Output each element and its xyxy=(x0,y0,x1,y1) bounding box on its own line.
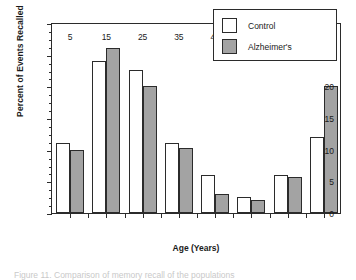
x-tick-75 xyxy=(324,213,325,218)
y-tick-minor xyxy=(49,206,52,207)
bar-alzheimer-s-65 xyxy=(288,177,302,213)
y-tick-minor xyxy=(49,143,52,144)
bar-control-65 xyxy=(274,175,288,213)
y-tick-minor xyxy=(49,72,52,73)
y-tick-minor xyxy=(49,64,52,65)
x-tick-label-35: 35 xyxy=(174,32,183,42)
x-tick-55 xyxy=(251,213,252,218)
y-tick-minor xyxy=(49,174,52,175)
y-tick-minor xyxy=(49,127,52,128)
y-tick-0 xyxy=(47,214,52,215)
legend-label-alzheimers: Alzheimer's xyxy=(248,42,292,52)
x-tick-45 xyxy=(215,213,216,218)
x-tick-label-5: 5 xyxy=(68,32,73,42)
figure-caption: Figure 11. Comparison of memory recall o… xyxy=(14,270,344,280)
y-tick-minor xyxy=(49,167,52,168)
legend-swatch-alzheimers xyxy=(222,39,237,54)
legend-item-control: Control xyxy=(222,15,336,36)
bar-group-25 xyxy=(129,24,157,213)
x-tick-boundary xyxy=(125,213,126,218)
x-tick-boundary xyxy=(306,213,307,218)
y-tick-minor xyxy=(49,103,52,104)
y-tick-label-5: 5 xyxy=(329,177,334,187)
legend-item-alzheimers: Alzheimer's xyxy=(222,36,336,57)
y-tick-minor xyxy=(49,159,52,160)
x-tick-boundary xyxy=(161,213,162,218)
x-tick-5 xyxy=(70,213,71,218)
y-tick-25 xyxy=(47,56,52,57)
y-tick-minor xyxy=(49,40,52,41)
y-tick-minor xyxy=(49,95,52,96)
x-tick-35 xyxy=(179,213,180,218)
x-tick-25 xyxy=(143,213,144,218)
bar-alzheimer-s-35 xyxy=(179,148,193,213)
y-tick-minor xyxy=(49,198,52,199)
x-tick-boundary xyxy=(233,213,234,218)
bar-control-5 xyxy=(56,143,70,213)
bar-alzheimer-s-15 xyxy=(106,48,120,213)
bar-control-55 xyxy=(237,197,251,213)
y-tick-label-0: 0 xyxy=(329,209,334,219)
bar-group-5 xyxy=(56,24,84,213)
y-tick-label-10: 10 xyxy=(325,146,334,156)
y-tick-minor xyxy=(49,79,52,80)
plot-right-spine xyxy=(340,23,341,214)
y-axis-title: Percent of Events Recalled xyxy=(15,0,25,141)
y-tick-minor xyxy=(49,32,52,33)
legend: Control Alzheimer's xyxy=(213,9,337,61)
y-tick-minor xyxy=(49,135,52,136)
y-tick-minor xyxy=(49,48,52,49)
bar-alzheimer-s-45 xyxy=(215,194,229,213)
bar-alzheimer-s-25 xyxy=(143,86,157,213)
y-tick-5 xyxy=(47,182,52,183)
y-tick-minor xyxy=(49,190,52,191)
y-tick-10 xyxy=(47,151,52,152)
legend-swatch-control xyxy=(222,18,237,33)
bar-alzheimer-s-55 xyxy=(251,200,265,213)
x-tick-label-25: 25 xyxy=(138,32,147,42)
bar-group-15 xyxy=(92,24,120,213)
bar-control-45 xyxy=(201,175,215,213)
x-tick-boundary xyxy=(197,213,198,218)
x-tick-65 xyxy=(288,213,289,218)
bar-group-35 xyxy=(165,24,193,213)
x-tick-15 xyxy=(106,213,107,218)
x-axis-title: Age (Years) xyxy=(51,243,341,253)
y-tick-15 xyxy=(47,119,52,120)
bar-alzheimer-s-5 xyxy=(70,150,84,213)
bar-control-25 xyxy=(129,70,143,213)
y-tick-label-15: 15 xyxy=(325,114,334,124)
x-tick-boundary xyxy=(270,213,271,218)
x-tick-label-15: 15 xyxy=(102,32,111,42)
y-tick-minor xyxy=(49,111,52,112)
y-tick-label-20: 20 xyxy=(325,82,334,92)
y-tick-20 xyxy=(47,87,52,88)
x-tick-boundary xyxy=(88,213,89,218)
bar-control-35 xyxy=(165,143,179,213)
bar-control-75 xyxy=(310,137,324,213)
bar-control-15 xyxy=(92,61,106,213)
legend-label-control: Control xyxy=(248,21,275,31)
